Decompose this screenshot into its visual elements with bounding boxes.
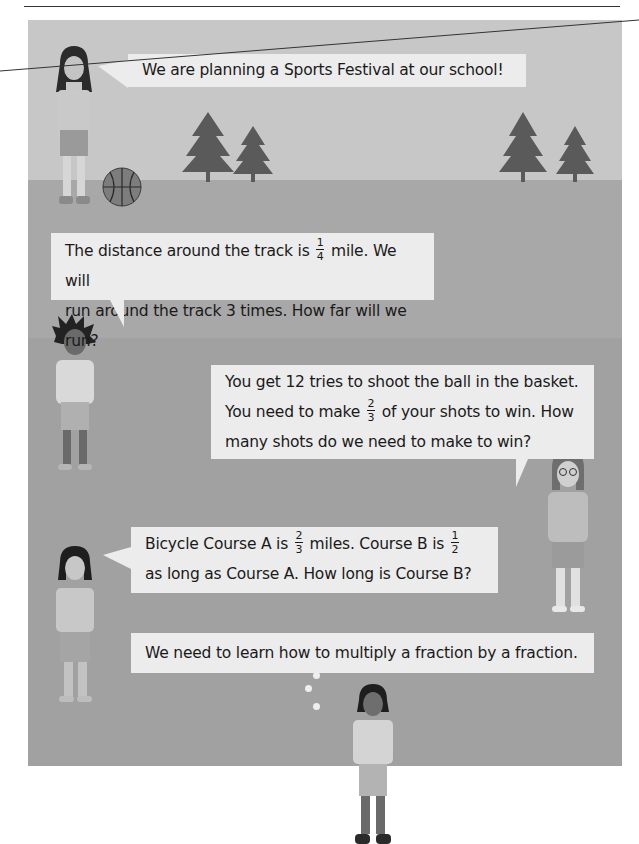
thought-dot [305, 685, 312, 692]
speech-bubble: We are planning a Sports Festival at our… [128, 54, 526, 87]
top-rule [24, 6, 620, 7]
pine-tree-icon [556, 126, 594, 182]
pine-tree-icon [233, 126, 273, 182]
thought-dot [313, 703, 320, 710]
bubble-line: as long as Course A. How long is Course … [145, 559, 484, 589]
illustration-panel: We are planning a Sports Festival at our… [28, 20, 622, 766]
bubble-line: You get 12 tries to shoot the ball in th… [225, 367, 580, 397]
speech-bubble: You get 12 tries to shoot the ball in th… [211, 365, 594, 459]
girl-glasses-figure [542, 450, 594, 616]
fraction: 23 [367, 398, 375, 423]
bubble-tail [103, 547, 131, 569]
speech-bubble: Bicycle Course A is 23 miles. Course B i… [131, 527, 498, 593]
basketball-icon [102, 167, 142, 207]
pine-tree-icon [499, 112, 547, 182]
bubble-line: The distance around the track is 14 mile… [65, 236, 420, 296]
thought-bubble: We need to learn how to multiply a fract… [131, 633, 594, 673]
bubble-tail [98, 60, 128, 88]
girl-long-hair-figure [48, 46, 100, 210]
fraction: 14 [316, 237, 324, 262]
bubble-tail [110, 300, 124, 327]
fraction: 12 [451, 530, 459, 555]
girl-short-hair-figure [50, 546, 100, 706]
pine-tree-icon [182, 112, 234, 182]
bubble-tail [516, 459, 528, 487]
thinking-boy-figure [349, 684, 397, 844]
thought-dot [313, 672, 320, 679]
bubble-line: many shots do we need to make to win? [225, 427, 580, 457]
bubble-text: We need to learn how to multiply a fract… [145, 644, 578, 662]
bubble-line: You need to make 23 of your shots to win… [225, 397, 580, 427]
speech-bubble: The distance around the track is 14 mile… [51, 233, 434, 300]
bubble-text: We are planning a Sports Festival at our… [142, 61, 503, 79]
bubble-line: Bicycle Course A is 23 miles. Course B i… [145, 529, 484, 559]
fraction: 23 [295, 530, 303, 555]
